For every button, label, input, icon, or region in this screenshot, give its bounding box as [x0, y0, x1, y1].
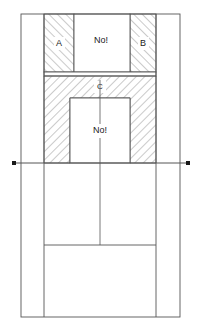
datum-marker-right: [186, 161, 190, 165]
annotation-top: No!: [94, 35, 108, 45]
annotation-inner: No!: [93, 125, 107, 135]
hatched-block-a: A: [44, 14, 74, 72]
block-b-label: B: [140, 38, 146, 48]
technical-diagram: A B C: [0, 0, 200, 330]
gap-band: [44, 72, 156, 76]
block-a-label: A: [56, 38, 62, 48]
datum-marker-left: [12, 161, 16, 165]
drawing-canvas: A B C: [0, 0, 200, 330]
annotation-inner-group: No!: [87, 124, 113, 138]
hatched-block-b: B: [130, 14, 156, 72]
annotation-top-group: No!: [88, 34, 114, 48]
